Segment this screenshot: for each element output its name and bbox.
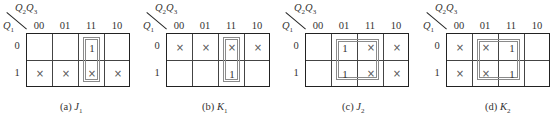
map-caption: (a) J1 — [60, 101, 82, 115]
cell-r1-c3 — [525, 60, 551, 87]
row-header-0: 0 — [432, 40, 442, 51]
cell-r0-c2: 1 — [499, 34, 525, 61]
row-variable-label: Q1 — [282, 20, 293, 34]
col-header-11: 11 — [498, 20, 524, 31]
cell-r0-c0 — [27, 34, 53, 61]
kmap-grid: × × 1 × × 1 — [446, 33, 550, 87]
cell-r0-c2: × — [219, 34, 245, 61]
col-header-01: 01 — [331, 20, 357, 31]
cell-r1-c2: 1 — [499, 60, 525, 87]
col-header-01: 01 — [52, 20, 78, 31]
kmap-grid: 1 × × 1 × × — [305, 33, 409, 87]
col-header-00: 00 — [446, 20, 472, 31]
cell-r1-c0 — [306, 60, 332, 87]
col-header-01: 01 — [472, 20, 498, 31]
col-header-11: 11 — [218, 20, 244, 31]
col-header-11: 11 — [78, 20, 104, 31]
row-header-1: 1 — [432, 67, 442, 78]
cell-r1-c3: × — [384, 60, 410, 87]
cell-r0-c2: × — [358, 34, 384, 61]
row-header-1: 1 — [12, 67, 22, 78]
col-header-10: 10 — [104, 20, 130, 31]
col-header-00: 00 — [305, 20, 331, 31]
cell-r1-c1: × — [53, 60, 79, 87]
cell-r0-c1: × — [473, 34, 499, 61]
cell-r1-c3: × — [105, 60, 131, 87]
cell-r0-c3: × — [384, 34, 410, 61]
col-header-10: 10 — [244, 20, 270, 31]
cell-r1-c0 — [167, 60, 193, 87]
kmap-d: Q2Q3 Q1 00 01 11 10 0 1 × × 1 × × 1 (d) … — [420, 0, 558, 119]
col-variable-label: Q2Q3 — [435, 2, 457, 16]
col-header-00: 00 — [166, 20, 192, 31]
cell-r0-c1 — [53, 34, 79, 61]
cell-r1-c0: × — [447, 60, 473, 87]
cell-r1-c2: × — [358, 60, 384, 87]
col-header-00: 00 — [26, 20, 52, 31]
col-header-11: 11 — [357, 20, 383, 31]
row-header-1: 1 — [152, 67, 162, 78]
cell-r0-c0 — [306, 34, 332, 61]
cell-r1-c2: × — [79, 60, 105, 87]
row-header-1: 1 — [291, 67, 301, 78]
cell-r1-c1: 1 — [332, 60, 358, 87]
kmap-grid: × × × × 1 — [166, 33, 270, 87]
cell-r0-c2: 1 — [79, 34, 105, 61]
cell-r1-c1: × — [473, 60, 499, 87]
cell-r1-c2: 1 — [219, 60, 245, 87]
cell-r0-c1: × — [193, 34, 219, 61]
cell-r1-c0: × — [27, 60, 53, 87]
map-caption: (d) K2 — [485, 101, 510, 115]
row-variable-label: Q1 — [423, 20, 434, 34]
col-variable-label: Q2Q3 — [294, 2, 316, 16]
cell-r0-c0: × — [167, 34, 193, 61]
cell-r0-c3 — [105, 34, 131, 61]
row-variable-label: Q1 — [143, 20, 154, 34]
map-caption: (b) K1 — [202, 101, 227, 115]
kmap-grid: 1 × × × × — [26, 33, 130, 87]
row-header-0: 0 — [291, 40, 301, 51]
cell-r0-c0: × — [447, 34, 473, 61]
row-header-0: 0 — [12, 40, 22, 51]
row-header-0: 0 — [152, 40, 162, 51]
col-header-10: 10 — [383, 20, 409, 31]
cell-r1-c1 — [193, 60, 219, 87]
col-header-10: 10 — [524, 20, 550, 31]
map-caption: (c) J2 — [342, 101, 364, 115]
cell-r1-c3 — [245, 60, 271, 87]
col-header-01: 01 — [192, 20, 218, 31]
kmap-c: Q2Q3 Q1 00 01 11 10 0 1 1 × × 1 × × (c) … — [279, 0, 419, 119]
cell-r0-c3 — [525, 34, 551, 61]
kmap-b: Q2Q3 Q1 00 01 11 10 0 1 × × × × 1 (b) K1 — [140, 0, 280, 119]
col-variable-label: Q2Q3 — [15, 2, 37, 16]
cell-r0-c1: 1 — [332, 34, 358, 61]
cell-r0-c3: × — [245, 34, 271, 61]
kmap-a: Q2Q3 Q1 00 01 11 10 0 1 1 × × × × (a) J1 — [0, 0, 140, 119]
row-variable-label: Q1 — [3, 20, 14, 34]
col-variable-label: Q2Q3 — [155, 2, 177, 16]
